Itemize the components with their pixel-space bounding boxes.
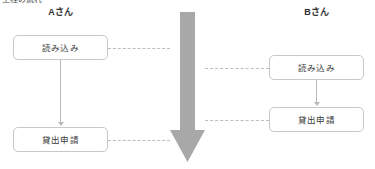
dashed-connector-arrow-to-b1: [205, 68, 269, 69]
process-node-b-read[interactable]: 読み込み: [269, 55, 364, 80]
connector-line-b1-b2: [316, 80, 317, 102]
process-node-label: 読み込み: [42, 43, 79, 53]
connector-arrowhead-a: [58, 122, 64, 126]
process-node-a-loan-request[interactable]: 貸出申請: [13, 127, 108, 152]
column-header-a: Aさん: [13, 7, 108, 18]
process-node-label: 貸出申請: [42, 135, 79, 145]
diagram-canvas: 工程の流れ Aさん Bさん 読み込み 貸出申請 読み込み 貸出申請: [0, 0, 375, 169]
dashed-connector-arrow-to-b2: [205, 120, 269, 121]
time-flow-arrow-icon: [170, 12, 205, 162]
clipped-caption-text: 工程の流れ: [2, 0, 42, 5]
connector-arrowhead-b: [314, 102, 320, 106]
dashed-connector-a2-to-arrow: [108, 140, 170, 141]
process-node-a-read[interactable]: 読み込み: [13, 35, 108, 60]
dashed-connector-a1-to-arrow: [108, 48, 170, 49]
process-node-label: 貸出申請: [298, 115, 335, 125]
process-node-label: 読み込み: [298, 63, 335, 73]
process-node-b-loan-request[interactable]: 貸出申請: [269, 107, 364, 132]
column-header-b: Bさん: [269, 7, 364, 18]
connector-line-a1-a2: [60, 60, 61, 122]
clipped-caption: 工程の流れ: [2, 0, 48, 6]
